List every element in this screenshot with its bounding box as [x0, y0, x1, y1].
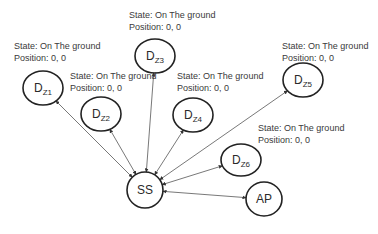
edge-ss-dz6 [162, 166, 222, 185]
state-label-dz5: State: On The groundPosition: 0, 0 [282, 40, 368, 64]
node-dz1: DZ1 [23, 71, 63, 105]
state-text: State: On The ground [177, 70, 263, 82]
position-text: Position: 0, 0 [129, 21, 215, 33]
node-dz5: DZ5 [283, 63, 323, 97]
node-label: AP [256, 192, 272, 206]
node-dz3: DZ3 [135, 39, 175, 73]
node-ss: SS [127, 172, 163, 208]
state-label-dz2: State: On The groundPosition: 0, 0 [70, 70, 156, 94]
state-label-dz4: State: On The groundPosition: 0, 0 [177, 70, 263, 94]
state-text: State: On The ground [258, 122, 344, 134]
node-dz6: DZ6 [221, 144, 261, 176]
node-ap: AP [246, 182, 282, 216]
state-label-dz1: State: On The groundPosition: 0, 0 [14, 40, 100, 64]
node-label: SS [137, 183, 153, 197]
state-text: State: On The ground [70, 70, 156, 82]
node-dz2: DZ2 [81, 97, 121, 131]
position-text: Position: 0, 0 [177, 82, 263, 94]
position-text: Position: 0, 0 [282, 52, 368, 64]
state-label-dz3: State: On The groundPosition: 0, 0 [129, 9, 215, 33]
edge-ss-dz4 [155, 130, 184, 175]
state-text: State: On The ground [129, 9, 215, 21]
position-text: Position: 0, 0 [258, 134, 344, 146]
state-label-dz6: State: On The groundPosition: 0, 0 [258, 122, 344, 146]
node-dz4: DZ4 [173, 98, 213, 132]
edge-ss-ap [163, 191, 246, 197]
network-diagram: DZ1DZ2DZ3DZ4DZ5DZ6SSAP [0, 0, 378, 234]
position-text: Position: 0, 0 [14, 52, 100, 64]
state-text: State: On The ground [282, 40, 368, 52]
position-text: Position: 0, 0 [70, 82, 156, 94]
state-text: State: On The ground [14, 40, 100, 52]
